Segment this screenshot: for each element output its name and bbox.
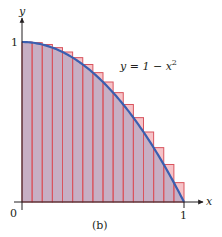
rectangle-3 — [52, 48, 62, 202]
rectangle-7 — [93, 73, 103, 202]
rectangle-1 — [32, 43, 42, 202]
rectangle-8 — [103, 82, 113, 202]
y-axis-label: y — [18, 5, 26, 18]
rectangle-6 — [83, 64, 93, 202]
rectangle-0 — [22, 42, 32, 202]
rectangle-4 — [63, 52, 73, 202]
y-tick-label-1: 1 — [11, 36, 18, 49]
x-tick-label-0: 0 — [10, 207, 17, 220]
rectangle-10 — [123, 104, 133, 202]
x-axis-label: x — [206, 195, 213, 208]
rectangle-5 — [73, 58, 83, 202]
x-tick-label-1: 1 — [180, 209, 187, 222]
rectangle-9 — [113, 93, 123, 202]
curve-equation-label: y = 1 − x2 — [119, 58, 177, 73]
figure-caption: (b) — [92, 219, 108, 232]
rectangle-2 — [42, 44, 52, 202]
riemann-sum-figure: y x 1 0 1 y = 1 − x2 (b) — [0, 0, 222, 237]
